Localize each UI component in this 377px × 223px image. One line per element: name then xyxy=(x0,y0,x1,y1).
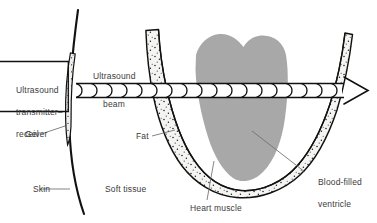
blood-filled-ventricle xyxy=(196,34,288,181)
heart-muscle-label: Heart muscle xyxy=(190,203,242,214)
transmitter-label-line1: Ultrasound xyxy=(16,85,59,95)
blood-filled-ventricle-label: Blood-filled ventricle xyxy=(308,166,374,221)
skin-label: Skin xyxy=(33,184,50,195)
soft-tissue-label: Soft tissue xyxy=(105,184,146,195)
ventricle-label-line2: ventricle xyxy=(318,199,351,209)
transmitter-label-line2: transmitter– xyxy=(16,107,63,117)
ultrasound-beam-label-line1: Ultrasound xyxy=(93,71,136,82)
fat-label: Fat xyxy=(136,131,149,142)
ventricle-label-line1: Blood-filled xyxy=(318,177,362,187)
gel-label: Gel xyxy=(25,129,39,140)
ultrasound-beam-label-line2: beam xyxy=(103,99,125,110)
beam-arrowhead xyxy=(344,77,368,104)
ultrasound-diagram: Ultrasound transmitter– receiver Ultraso… xyxy=(0,0,377,223)
